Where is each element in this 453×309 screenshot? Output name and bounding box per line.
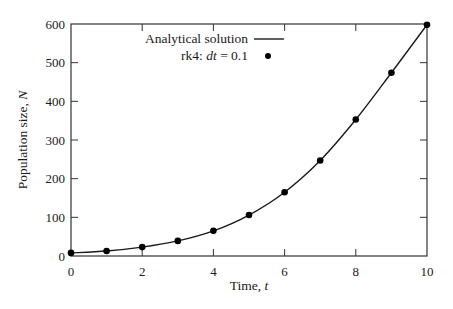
legend-analytical-label: Analytical solution <box>145 31 248 46</box>
legend-marker-swatch <box>265 53 271 59</box>
y-tick-label: 500 <box>46 55 66 70</box>
x-tick-label: 6 <box>281 264 288 279</box>
data-series <box>68 21 431 256</box>
y-tick-label: 200 <box>46 171 66 186</box>
rk4-data-point <box>68 250 75 257</box>
rk4-data-point <box>353 116 360 123</box>
x-tick-label: 10 <box>421 264 434 279</box>
y-tick-label: 400 <box>46 94 66 109</box>
y-axis-label: Population size, N <box>15 90 30 190</box>
rk4-data-point <box>246 212 253 219</box>
axes-frame <box>71 24 427 256</box>
x-tick-label: 2 <box>139 264 146 279</box>
rk4-data-point <box>175 238 182 245</box>
x-tick-label: 8 <box>353 264 360 279</box>
analytical-solution-line <box>71 25 427 253</box>
rk4-data-point <box>281 189 288 196</box>
x-axis-label: Time, t <box>230 278 270 293</box>
y-tick-label: 300 <box>46 133 66 148</box>
legend-rk4-label: rk4: dt = 0.1 <box>181 48 248 63</box>
rk4-data-point <box>388 69 395 76</box>
x-tick-label: 4 <box>210 264 217 279</box>
y-tick-label: 100 <box>46 210 66 225</box>
rk4-data-point <box>139 244 146 251</box>
rk4-data-point <box>424 21 431 28</box>
legend: Analytical solution rk4: dt = 0.1 <box>145 31 284 63</box>
y-tick-label: 0 <box>59 249 66 264</box>
plot-frame <box>71 24 427 256</box>
rk4-data-point <box>317 157 324 164</box>
population-chart: 02468100100200300400500600 Analytical so… <box>0 0 453 309</box>
y-tick-label: 600 <box>46 17 66 32</box>
rk4-data-point <box>103 248 110 255</box>
rk4-data-point <box>210 228 217 235</box>
x-tick-label: 0 <box>68 264 75 279</box>
